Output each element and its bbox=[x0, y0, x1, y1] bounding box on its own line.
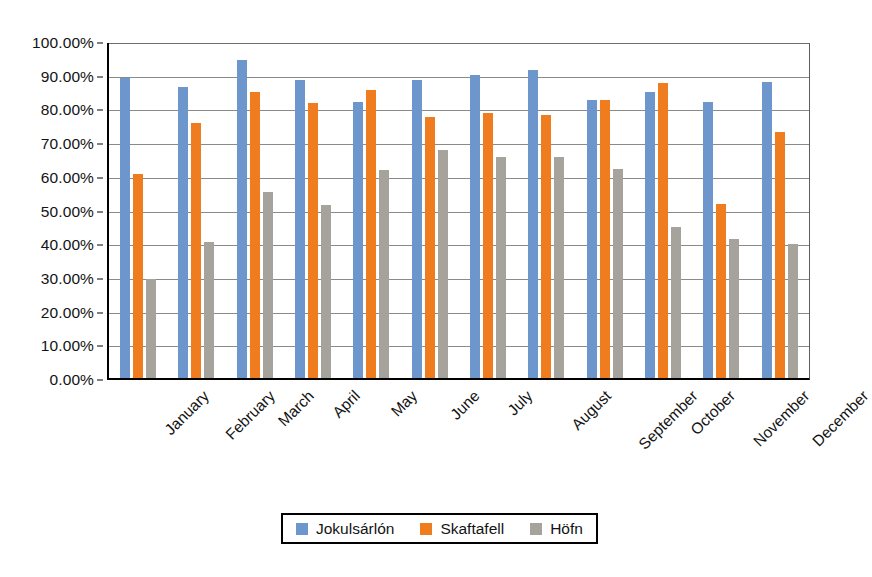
bar-jokulsrln-august bbox=[528, 70, 538, 378]
legend-item: Höfn bbox=[530, 520, 583, 538]
bar-group bbox=[517, 43, 575, 378]
bar-jokulsrln-january bbox=[120, 78, 130, 378]
legend-swatch-hofn bbox=[530, 523, 542, 535]
y-axis-tick-label: 70.00% bbox=[41, 135, 94, 153]
y-axis-tick-mark bbox=[97, 177, 103, 178]
y-axis: 100.00%90.00%80.00%70.00%60.00%50.00%40.… bbox=[0, 43, 103, 380]
bar-jokulsrln-november bbox=[703, 102, 713, 378]
x-axis-tick-label: August bbox=[568, 387, 615, 434]
bar-group bbox=[109, 43, 167, 378]
bar-jokulsrln-february bbox=[178, 87, 188, 378]
bar-group bbox=[751, 43, 809, 378]
bar-skaftafell-april bbox=[308, 103, 318, 378]
bar-skaftafell-march bbox=[250, 92, 260, 378]
bar-hfn-november bbox=[729, 239, 739, 378]
y-axis-tick-mark bbox=[97, 278, 103, 279]
bar-hfn-february bbox=[204, 242, 214, 378]
y-axis-tick-label: 20.00% bbox=[41, 304, 94, 322]
legend-swatch-jokulsarlon bbox=[296, 523, 308, 535]
bar-skaftafell-july bbox=[483, 113, 493, 378]
bar-group bbox=[226, 43, 284, 378]
legend-item-label: Skaftafell bbox=[440, 520, 504, 538]
bar-hfn-july bbox=[496, 157, 506, 378]
x-axis-tick-label: December bbox=[809, 387, 872, 450]
bar-skaftafell-november bbox=[716, 204, 726, 378]
y-axis-tick-label: 50.00% bbox=[41, 203, 94, 221]
x-axis: JanuaryFebruaryMarchAprilMayJuneJulyAugu… bbox=[109, 383, 810, 493]
bar-hfn-september bbox=[613, 169, 623, 378]
bar-jokulsrln-march bbox=[237, 60, 247, 378]
bar-skaftafell-february bbox=[191, 123, 201, 378]
bar-skaftafell-september bbox=[600, 100, 610, 378]
bar-jokulsrln-september bbox=[587, 100, 597, 378]
plot-area bbox=[107, 43, 810, 380]
bar-group bbox=[284, 43, 342, 378]
bar-jokulsrln-october bbox=[645, 92, 655, 378]
x-axis-tick-label: January bbox=[161, 387, 213, 439]
bar-group bbox=[459, 43, 517, 378]
y-axis-tick-mark bbox=[97, 110, 103, 111]
bar-hfn-may bbox=[379, 170, 389, 378]
bar-hfn-january bbox=[146, 279, 156, 378]
bar-skaftafell-june bbox=[425, 117, 435, 378]
y-axis-tick-label: 10.00% bbox=[41, 337, 94, 355]
x-axis-tick-label: February bbox=[222, 387, 279, 444]
x-axis-tick-label: April bbox=[330, 387, 365, 422]
y-axis-tick-mark bbox=[97, 312, 103, 313]
bar-jokulsrln-april bbox=[295, 80, 305, 378]
bar-hfn-august bbox=[554, 157, 564, 378]
x-axis-tick-label: June bbox=[447, 387, 484, 424]
y-axis-tick-mark bbox=[97, 76, 103, 77]
legend-item: Jokulsárlón bbox=[296, 520, 394, 538]
bar-skaftafell-august bbox=[541, 115, 551, 378]
bar-skaftafell-may bbox=[366, 90, 376, 378]
bar-group bbox=[692, 43, 750, 378]
y-axis-tick-label: 0.00% bbox=[50, 371, 94, 389]
x-axis-tick-label: May bbox=[387, 387, 420, 420]
bar-group bbox=[167, 43, 225, 378]
y-axis-tick-label: 30.00% bbox=[41, 270, 94, 288]
bar-jokulsrln-july bbox=[470, 75, 480, 378]
y-axis-tick-mark bbox=[97, 211, 103, 212]
x-axis-tick-label: July bbox=[504, 387, 536, 419]
legend-item-label: Jokulsárlón bbox=[316, 520, 394, 538]
y-axis-tick-mark bbox=[97, 245, 103, 246]
bar-skaftafell-december bbox=[775, 132, 785, 378]
bars-layer bbox=[109, 43, 809, 378]
bar-jokulsrln-may bbox=[353, 102, 363, 378]
bar-hfn-april bbox=[321, 205, 331, 378]
bar-hfn-june bbox=[438, 150, 448, 378]
bar-group bbox=[342, 43, 400, 378]
x-axis-tick-label: November bbox=[750, 387, 813, 450]
legend-item: Skaftafell bbox=[420, 520, 504, 538]
y-axis-tick-mark bbox=[97, 346, 103, 347]
y-axis-tick-label: 80.00% bbox=[41, 101, 94, 119]
y-axis-tick-label: 100.00% bbox=[32, 34, 94, 52]
bar-skaftafell-october bbox=[658, 83, 668, 378]
legend-swatch-skaftafell bbox=[420, 523, 432, 535]
bar-hfn-october bbox=[671, 227, 681, 378]
bar-group bbox=[634, 43, 692, 378]
x-axis-tick-label: March bbox=[275, 387, 318, 430]
y-axis-tick-label: 90.00% bbox=[41, 68, 94, 86]
chart-legend: JokulsárlónSkaftafellHöfn bbox=[281, 513, 598, 544]
y-axis-tick-mark bbox=[97, 380, 103, 381]
legend-item-label: Höfn bbox=[550, 520, 583, 538]
bar-hfn-march bbox=[263, 192, 273, 378]
bar-hfn-december bbox=[788, 244, 798, 378]
bar-group bbox=[576, 43, 634, 378]
y-axis-tick-mark bbox=[97, 144, 103, 145]
y-axis-tick-label: 60.00% bbox=[41, 169, 94, 187]
bar-group bbox=[401, 43, 459, 378]
y-axis-tick-label: 40.00% bbox=[41, 236, 94, 254]
bar-skaftafell-january bbox=[133, 174, 143, 378]
bar-jokulsrln-december bbox=[762, 82, 772, 378]
y-axis-tick-mark bbox=[97, 43, 103, 44]
bar-jokulsrln-june bbox=[412, 80, 422, 378]
